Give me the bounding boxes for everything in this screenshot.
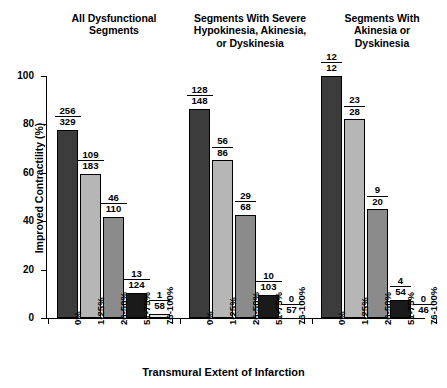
bar-value-denominator: 124 — [124, 279, 150, 290]
bar-value-denominator: 28 — [344, 106, 365, 117]
bar-value-denominator: 20 — [367, 196, 388, 207]
bar-value-label: 109183 — [74, 150, 108, 172]
panel-title-line: Segments With — [344, 12, 419, 24]
bar-value-denominator: 86 — [212, 147, 233, 158]
y-tick-mark — [41, 173, 46, 174]
x-tick-label: 51-75% — [273, 292, 284, 325]
bar-value-label: 13124 — [120, 269, 154, 291]
panel-title-line: or Dyskinesia — [216, 37, 284, 49]
bar-value-numerator: 109 — [78, 150, 104, 160]
panel-title-line: Dyskinesia — [355, 37, 409, 49]
x-axis-tick-mark — [172, 319, 173, 324]
x-axis-tick-mark — [180, 319, 181, 324]
y-tick-mark — [41, 270, 46, 271]
bar-value-numerator: 13 — [124, 269, 150, 279]
bar-value-label: 46110 — [97, 193, 131, 215]
y-tick-mark — [41, 76, 46, 77]
x-axis-title: Transmural Extent of Infarction — [0, 366, 447, 378]
x-tick-label: 1-25% — [359, 297, 370, 325]
bar — [344, 119, 365, 318]
x-tick-label: 0% — [204, 311, 215, 325]
bar-value-numerator: 4 — [390, 276, 411, 286]
bar-value-denominator: 103 — [256, 281, 282, 292]
y-tick-label: 20 — [8, 264, 34, 275]
bar-value-numerator: 23 — [344, 95, 365, 105]
bar-value-denominator: 183 — [78, 160, 104, 171]
y-axis-title: Improved Contractility (%) — [33, 73, 45, 303]
x-tick-label: 51-75% — [405, 292, 416, 325]
y-tick-label: 60 — [8, 167, 34, 178]
bar-value-label: 5686 — [206, 136, 240, 158]
panel-title-severe-hypokinesia: Segments With Severe Hypokinesia, Akines… — [176, 12, 324, 49]
y-tick-label: 0 — [8, 312, 34, 323]
x-tick-label: 1-25% — [227, 297, 238, 325]
x-axis-tick-mark — [436, 319, 437, 324]
bar-value-label: 2328 — [338, 95, 372, 117]
bar-value-numerator: 9 — [367, 185, 388, 195]
panel-title-line: Akinesia or — [354, 24, 410, 36]
bar-value-label: 920 — [361, 185, 395, 207]
y-tick-label: 100 — [8, 70, 34, 81]
x-tick-label: 26-50% — [250, 292, 261, 325]
x-tick-label: 26-50% — [118, 292, 129, 325]
x-tick-label: 0% — [336, 311, 347, 325]
panel-title-line: Segments — [89, 24, 139, 36]
y-tick-mark — [41, 124, 46, 125]
panel-title-all-dysfunctional: All Dysfunctional Segments — [44, 12, 184, 37]
bar — [212, 160, 233, 318]
x-tick-label: 51-75% — [141, 292, 152, 325]
bar-value-numerator: 12 — [321, 52, 342, 62]
bar-value-label: 128148 — [183, 85, 217, 107]
y-tick-mark — [41, 318, 46, 319]
bar-value-numerator: 56 — [212, 136, 233, 146]
x-tick-label: 26-50% — [382, 292, 393, 325]
x-axis-tick-mark — [312, 319, 313, 324]
bar-value-numerator: 10 — [256, 271, 282, 281]
bar-value-numerator: 256 — [55, 106, 81, 116]
panel-titles: All Dysfunctional Segments Segments With… — [0, 6, 447, 62]
chart-figure: All Dysfunctional Segments Segments With… — [0, 0, 447, 388]
x-tick-label: 0% — [72, 311, 83, 325]
x-axis-tick-mark — [48, 319, 49, 324]
x-axis-tick-mark — [304, 319, 305, 324]
bar-value-numerator: 128 — [187, 85, 213, 95]
bar-value-denominator: 148 — [187, 95, 213, 106]
y-tick-label: 40 — [8, 215, 34, 226]
panel-title-line: Segments With Severe — [194, 12, 306, 24]
bar-value-label: 256329 — [51, 106, 85, 128]
bar-value-denominator: 329 — [55, 116, 81, 127]
bar-value-numerator: 29 — [235, 191, 256, 201]
bar-value-denominator: 68 — [235, 201, 256, 212]
bar-value-numerator: 46 — [101, 193, 127, 203]
panel-title-line: All Dysfunctional — [72, 12, 157, 24]
y-tick-mark — [41, 221, 46, 222]
y-tick-label: 80 — [8, 118, 34, 129]
x-tick-label: 1-25% — [95, 297, 106, 325]
bar-value-denominator: 12 — [321, 62, 342, 73]
bar-value-denominator: 110 — [101, 203, 127, 214]
bar-value-label: 10103 — [252, 271, 286, 293]
panel-title-line: Hypokinesia, Akinesia, — [194, 24, 306, 36]
y-axis-line — [46, 76, 47, 319]
panel-title-akinesia-dyskinesia: Segments With Akinesia or Dyskinesia — [318, 12, 446, 49]
bar-value-label: 1212 — [315, 52, 349, 74]
bar-value-label: 2968 — [229, 191, 263, 213]
